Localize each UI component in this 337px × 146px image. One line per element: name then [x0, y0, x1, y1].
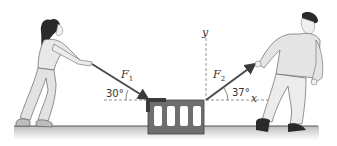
f1-angle-label: 30° — [106, 89, 124, 99]
angle-arc-30 — [126, 90, 128, 100]
f2-angle-label: 37° — [232, 88, 250, 98]
force-diagram: F1 30° F2 37° y x — [0, 0, 337, 146]
f2-label: F2 — [213, 69, 225, 83]
man-figure — [255, 12, 323, 132]
diagram-canvas — [0, 0, 337, 146]
y-axis-label: y — [202, 27, 208, 38]
woman-figure — [16, 19, 92, 127]
x-axis-label: x — [251, 93, 257, 104]
f1-label: F1 — [121, 69, 133, 83]
cinder-block — [146, 98, 204, 134]
angle-arc-37 — [224, 88, 228, 100]
